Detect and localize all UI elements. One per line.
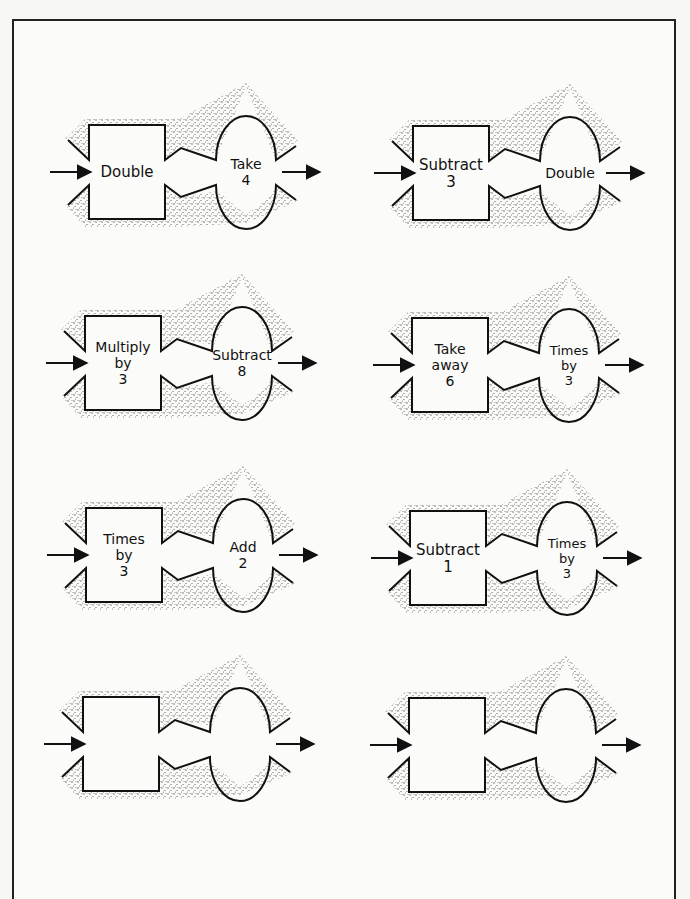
function-machine: Multiplyby3Subtract8 [46, 274, 316, 420]
box-operation-label: by [114, 355, 131, 371]
box-operation-label: Subtract [419, 156, 483, 174]
box-operation-label: Subtract [416, 541, 480, 559]
box-operation-label: Multiply [95, 339, 150, 355]
function-machine: Timesby3Add2 [47, 466, 317, 612]
box-operation-label: Take [433, 341, 465, 357]
function-machine: DoubleTake4 [50, 83, 320, 229]
box-operation-label: away [432, 357, 469, 373]
oval-operation-label: 8 [238, 363, 247, 379]
box-operation-label: 6 [446, 373, 455, 389]
oval-operation-label: 4 [242, 172, 251, 188]
box-operation-label: 3 [446, 173, 456, 191]
box-operation-label: 3 [119, 371, 128, 387]
oval-operation-label: 2 [239, 555, 248, 571]
oval-operation-label: Subtract [212, 347, 272, 363]
oval-operation-label: Times [547, 536, 587, 551]
oval-operation-label: Double [545, 165, 595, 181]
oval-operation-label: Take [229, 156, 261, 172]
function-machine: Subtract1Timesby3 [371, 469, 641, 615]
box-operation-label: by [115, 547, 132, 563]
oval-operation-label: by [561, 358, 577, 373]
box-operation-label: 1 [443, 558, 453, 576]
oval-operation-label: Add [229, 539, 256, 555]
box-operation-label: Times [102, 531, 145, 547]
box-operation-label: Double [100, 163, 153, 181]
function-machine [44, 655, 314, 801]
oval-operation-label: by [559, 551, 575, 566]
oval-operation-label: 3 [563, 566, 571, 581]
function-machine: Takeaway6Timesby3 [373, 276, 643, 422]
function-machine [370, 656, 640, 802]
oval-operation-label: Times [549, 343, 589, 358]
oval-operation-label: 3 [565, 373, 573, 388]
box-operation-label: 3 [120, 563, 129, 579]
function-machine: Subtract3Double [374, 84, 644, 230]
